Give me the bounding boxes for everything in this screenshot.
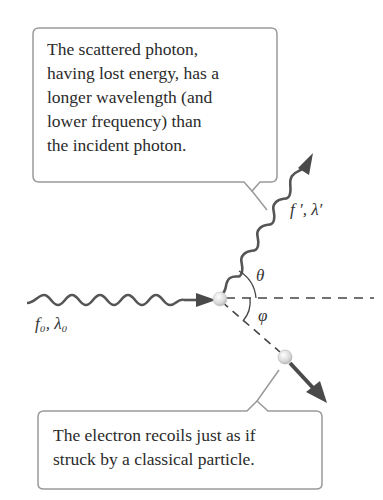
- phi-angle-arc: [243, 298, 250, 321]
- recoil-direction-dashed-line: [222, 302, 280, 352]
- scattered-photon-callout-text: The scattered photon, having lost energy…: [47, 37, 219, 157]
- incident-photon-wave: [27, 295, 184, 305]
- electron-initial: [213, 292, 227, 306]
- scattered-photon-label: f ′, λ′: [290, 200, 322, 220]
- electron-recoiled: [278, 350, 292, 364]
- incident-photon-label: f₀, λ₀: [35, 314, 67, 334]
- phi-label: φ: [258, 306, 267, 326]
- electron-callout-text: The electron recoils just as if struck b…: [53, 423, 256, 471]
- recoil-arrow-shaft: [290, 363, 315, 390]
- theta-label: θ: [256, 266, 264, 286]
